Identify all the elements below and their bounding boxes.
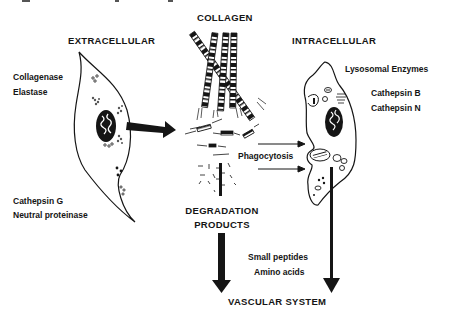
enzyme-cathepsin-g: Cathepsin G: [13, 196, 63, 206]
enzyme-elastase: Elastase: [13, 87, 48, 97]
intracellular-to-vascular-arrow: [323, 167, 340, 293]
product-small-peptides: Small peptides: [248, 252, 308, 262]
enzyme-cathepsin-n: Cathepsin N: [371, 103, 421, 113]
golgi-icon: [336, 94, 346, 103]
enzyme-collagenase: Collagenase: [13, 72, 63, 82]
collagen-fibers: [185, 31, 266, 196]
cropped-caption-fragment: [22, 0, 173, 2]
intracellular-heading: INTRACELLULAR: [292, 35, 376, 46]
phagocytosis-label: Phagocytosis: [238, 151, 293, 161]
degradation-products-heading: DEGRADATION PRODUCTS: [179, 205, 265, 230]
secretion-arrow: [126, 121, 176, 138]
vascular-system-heading: VASCULAR SYSTEM: [228, 296, 326, 307]
collagen-heading: COLLAGEN: [197, 12, 253, 23]
nucleus-icon: [325, 107, 343, 137]
diagram-artwork: [0, 0, 451, 316]
degradation-line2: PRODUCTS: [179, 219, 265, 230]
lysosomal-enzymes-title: Lysosomal Enzymes: [345, 64, 428, 74]
degradation-to-vascular-arrow: [212, 233, 231, 293]
extracellular-heading: EXTRACELLULAR: [68, 35, 155, 46]
degradation-line1: DEGRADATION: [179, 205, 265, 216]
extracellular-cell: [74, 52, 135, 222]
product-amino-acids: Amino acids: [254, 267, 305, 277]
nucleus-icon: [96, 110, 116, 142]
enzyme-cathepsin-b: Cathepsin B: [371, 88, 421, 98]
collagen-degradation-diagram: EXTRACELLULAR COLLAGEN INTRACELLULAR Col…: [0, 0, 451, 316]
enzyme-neutral-proteinase: Neutral proteinase: [13, 210, 88, 220]
